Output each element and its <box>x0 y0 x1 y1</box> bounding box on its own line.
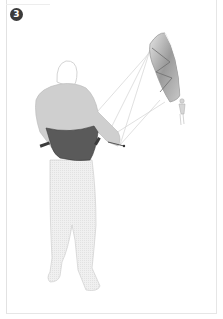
distant-figure <box>179 99 185 125</box>
kite-flyer-illustration <box>0 0 223 319</box>
kite-canopy <box>150 33 181 102</box>
